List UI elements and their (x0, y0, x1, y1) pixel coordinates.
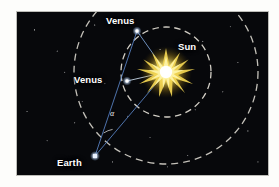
orbit-diagram (0, 0, 279, 187)
figure-root: Venus Venus Sun Earth α (0, 0, 279, 187)
sight-line-earth-to-venus-outer (95, 31, 137, 156)
elongation-angle-arc (104, 129, 113, 133)
venus-inner-planet-dot-icon (122, 76, 131, 85)
earth-planet-dot-icon (90, 151, 100, 161)
venus-outer-planet-dot-icon (132, 26, 141, 35)
sun-starburst-icon (137, 46, 195, 98)
